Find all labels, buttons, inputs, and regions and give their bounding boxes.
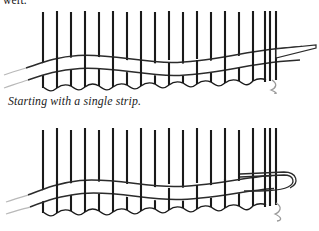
figure-top-drawing [0, 2, 319, 94]
stakes-behind-group [43, 11, 253, 88]
book-page: weft. [0, 0, 319, 231]
stakes-behind-group [43, 128, 253, 213]
figure-caption: Starting with a single strip. [8, 94, 141, 109]
stake-cluster-group [265, 11, 276, 82]
loose-end-squiggle-icon [271, 80, 276, 94]
strip-band-group [8, 177, 286, 212]
stake-cluster-group [265, 128, 276, 207]
figure-bottom-drawing [0, 115, 319, 231]
figure-strip-wrapped-back [0, 115, 319, 231]
figure-single-strip-start [0, 2, 319, 94]
loose-end-squiggle-icon [275, 203, 281, 221]
